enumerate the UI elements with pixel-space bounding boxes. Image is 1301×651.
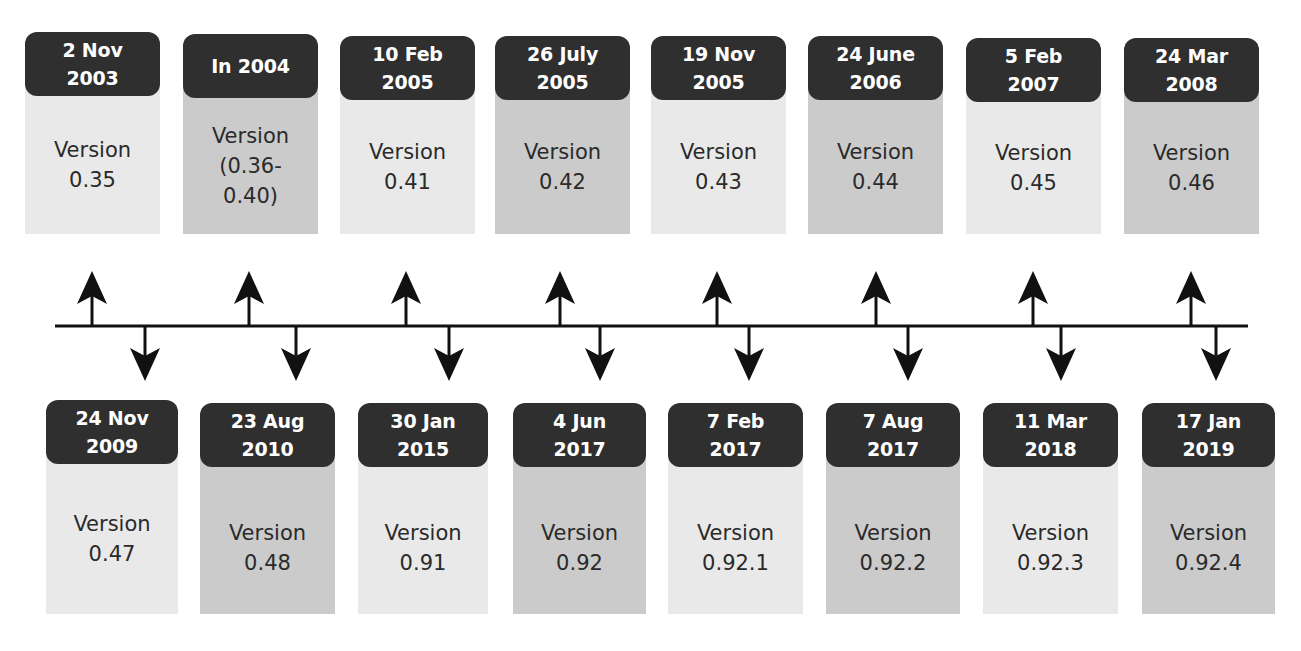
up-arrow-icon (861, 271, 891, 326)
milestone-card: 19 Nov 2005 Version 0.43 (651, 36, 786, 234)
version-number: 0.45 (1010, 168, 1057, 198)
up-arrow-icon (1176, 271, 1206, 326)
milestone-card: 7 Feb 2017 Version 0.92.1 (668, 403, 803, 614)
date-line-1: 7 Feb (707, 407, 765, 435)
down-arrow-icon (893, 326, 923, 381)
version-number: 0.42 (539, 167, 586, 197)
version-body: Version 0.91 (358, 457, 488, 614)
date-line-2: 2015 (397, 435, 449, 463)
version-body: Version 0.35 (25, 86, 160, 234)
date-line-1: 24 Mar (1155, 42, 1228, 70)
date-line-2: 2009 (86, 432, 138, 460)
date-line-2: 2005 (381, 68, 433, 96)
version-body: Version 0.92.4 (1142, 457, 1275, 614)
date-header: 5 Feb 2007 (966, 38, 1101, 102)
date-header: 26 July 2005 (495, 36, 630, 100)
date-line-1: 5 Feb (1005, 42, 1063, 70)
date-line-2: 2017 (709, 435, 761, 463)
date-line-2: 2007 (1007, 70, 1059, 98)
milestone-card: 10 Feb 2005 Version 0.41 (340, 36, 475, 234)
version-label: Version (854, 518, 931, 548)
milestone-card: 7 Aug 2017 Version 0.92.2 (826, 403, 960, 614)
version-number: 0.92.4 (1175, 548, 1242, 578)
date-line-2: 2003 (66, 64, 118, 92)
version-label: Version (995, 138, 1072, 168)
date-header: 24 Mar 2008 (1124, 38, 1259, 102)
date-header: 24 June 2006 (808, 36, 943, 100)
milestone-card: 30 Jan 2015 Version 0.91 (358, 403, 488, 614)
version-body: Version (0.36- 0.40) (183, 88, 318, 234)
version-body: Version 0.44 (808, 90, 943, 234)
date-header: In 2004 (183, 34, 318, 98)
date-line-1: 2 Nov (62, 36, 122, 64)
date-header: 4 Jun 2017 (513, 403, 646, 467)
version-number: 0.43 (695, 167, 742, 197)
version-label: Version (1170, 518, 1247, 548)
date-header: 17 Jan 2019 (1142, 403, 1275, 467)
version-label: Version (1153, 138, 1230, 168)
version-body: Version 0.42 (495, 90, 630, 234)
date-line-2: 2005 (692, 68, 744, 96)
date-header: 10 Feb 2005 (340, 36, 475, 100)
up-arrows (77, 271, 1206, 326)
up-arrow-icon (234, 271, 264, 326)
down-arrow-icon (734, 326, 764, 381)
date-line-1: 30 Jan (390, 407, 455, 435)
up-arrow-icon (77, 271, 107, 326)
milestone-card: 5 Feb 2007 Version 0.45 (966, 38, 1101, 234)
date-line-2: 2017 (867, 435, 919, 463)
down-arrow-icon (130, 326, 160, 381)
milestone-card: 4 Jun 2017 Version 0.92 (513, 403, 646, 614)
down-arrow-icon (585, 326, 615, 381)
down-arrow-icon (1201, 326, 1231, 381)
date-line-2: 2010 (241, 435, 293, 463)
version-label: Version (697, 518, 774, 548)
down-arrow-icon (1046, 326, 1076, 381)
version-number: 0.48 (244, 548, 291, 578)
date-header: 7 Feb 2017 (668, 403, 803, 467)
up-arrow-icon (702, 271, 732, 326)
date-header: 19 Nov 2005 (651, 36, 786, 100)
date-line-2: 2017 (553, 435, 605, 463)
milestone-card: 11 Mar 2018 Version 0.92.3 (983, 403, 1118, 614)
milestone-card: 24 Nov 2009 Version 0.47 (46, 400, 178, 614)
date-line-1: 11 Mar (1014, 407, 1087, 435)
milestone-card: 2 Nov 2003 Version 0.35 (25, 32, 160, 234)
version-body: Version 0.48 (200, 457, 335, 614)
date-line-1: 17 Jan (1176, 407, 1241, 435)
version-number: 0.92.1 (702, 548, 769, 578)
version-number: (0.36- (219, 151, 282, 181)
up-arrow-icon (545, 271, 575, 326)
date-header: 2 Nov 2003 (25, 32, 160, 96)
date-header: 11 Mar 2018 (983, 403, 1118, 467)
version-label: Version (524, 137, 601, 167)
version-label: Version (541, 518, 618, 548)
down-arrow-icon (281, 326, 311, 381)
version-label: Version (229, 518, 306, 548)
up-arrow-icon (391, 271, 421, 326)
version-label: Version (73, 509, 150, 539)
version-number: 0.41 (384, 167, 431, 197)
down-arrows (130, 326, 1231, 381)
version-body: Version 0.41 (340, 90, 475, 234)
milestone-card: 23 Aug 2010 Version 0.48 (200, 403, 335, 614)
version-body: Version 0.92.2 (826, 457, 960, 614)
date-line-1: 23 Aug (231, 407, 305, 435)
date-line-1: 24 Nov (75, 404, 148, 432)
date-line-2: 2019 (1182, 435, 1234, 463)
version-body: Version 0.43 (651, 90, 786, 234)
date-line-1: 10 Feb (372, 40, 443, 68)
milestone-card: 26 July 2005 Version 0.42 (495, 36, 630, 234)
version-body: Version 0.47 (46, 454, 178, 614)
version-label: Version (54, 135, 131, 165)
date-line-1: 7 Aug (863, 407, 924, 435)
version-number: 0.92 (556, 548, 603, 578)
date-header: 30 Jan 2015 (358, 403, 488, 467)
version-number-line-2: 0.40) (223, 181, 278, 211)
version-label: Version (212, 121, 289, 151)
version-body: Version 0.46 (1124, 92, 1259, 234)
version-number: 0.46 (1168, 168, 1215, 198)
date-line-1: 24 June (836, 40, 915, 68)
milestone-card: 24 Mar 2008 Version 0.46 (1124, 38, 1259, 234)
version-label: Version (837, 137, 914, 167)
